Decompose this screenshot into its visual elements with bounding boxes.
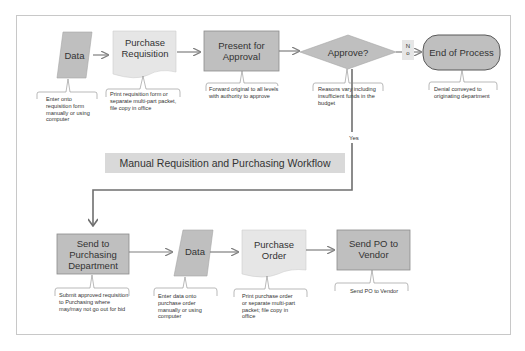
label-purchase-requisition: Purchase Requisition xyxy=(120,33,170,63)
edge-label-no-bottom: o xyxy=(406,50,409,57)
edge-label-no: N o xyxy=(402,40,414,60)
edge-label-yes: Yes xyxy=(349,135,359,141)
note-data2: Enter data onto purchase order manually … xyxy=(158,293,216,320)
note-purchase-requisition: Print requisition form or separate multi… xyxy=(110,91,180,111)
label-end-of-process: End of Process xyxy=(423,42,500,62)
note-send-po-to-vendor: Send PO to Vendor xyxy=(341,288,407,295)
label-send-to-purchasing: Send to Purchasing Department xyxy=(60,236,126,272)
label-present-for-approval: Present for Approval xyxy=(209,35,274,67)
label-data1: Data xyxy=(57,45,92,65)
label-data2: Data xyxy=(178,242,212,260)
note-present-for-approval: Forward original to all levels with auth… xyxy=(209,86,281,100)
label-send-po-to-vendor: Send PO to Vendor xyxy=(340,233,407,265)
note-send-to-purchasing: Submit approved requisition to Purchasin… xyxy=(59,292,129,312)
diagram-title: Manual Requisition and Purchasing Workfl… xyxy=(105,153,345,173)
note-approve: Reasons vary including insufficient fund… xyxy=(318,86,386,106)
note-end-of-process: Denial conveyed to originating departmen… xyxy=(434,86,500,100)
note-purchase-order: Print purchase order or separate multi-p… xyxy=(242,293,298,320)
note-data1: Enter onto requisition form manually or … xyxy=(46,96,92,123)
edge-label-no-top: N xyxy=(406,43,410,50)
label-approve: Approve? xyxy=(315,43,381,61)
label-purchase-order: Purchase Order xyxy=(247,234,301,266)
